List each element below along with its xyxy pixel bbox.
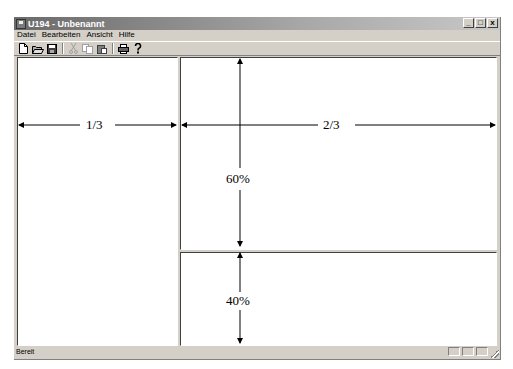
window-title: U194 - Unbenannt xyxy=(28,19,105,29)
status-text: Bereit xyxy=(16,348,34,355)
status-panel xyxy=(448,347,460,356)
menu-hilfe[interactable]: Hilfe xyxy=(116,30,138,40)
status-panels xyxy=(448,347,488,356)
new-file-icon xyxy=(19,43,28,54)
copy-button[interactable] xyxy=(81,43,94,55)
help-button[interactable] xyxy=(131,43,144,55)
label-bottom-height: 40% xyxy=(224,293,252,309)
label-left-width: 1/3 xyxy=(84,117,105,133)
paste-button[interactable] xyxy=(95,43,108,55)
save-button[interactable] xyxy=(45,43,58,55)
left-pane[interactable] xyxy=(17,57,178,346)
cut-button[interactable] xyxy=(67,43,80,55)
close-button[interactable]: x xyxy=(487,18,498,28)
label-top-height: 60% xyxy=(224,171,252,187)
toolbar xyxy=(14,41,500,56)
right-top-pane[interactable] xyxy=(180,57,497,250)
print-icon xyxy=(118,44,129,54)
maximize-button[interactable]: □ xyxy=(475,18,486,28)
minimize-button[interactable]: _ xyxy=(463,18,474,28)
new-file-button[interactable] xyxy=(17,43,30,55)
cut-icon xyxy=(69,43,78,54)
open-folder-icon xyxy=(32,44,44,54)
status-bar: Bereit xyxy=(14,345,500,359)
resize-grip[interactable] xyxy=(490,349,499,358)
paste-icon xyxy=(97,44,107,54)
window-controls: _ □ x xyxy=(463,18,498,28)
toolbar-separator xyxy=(62,43,64,54)
label-right-width: 2/3 xyxy=(321,117,342,133)
app-window: U194 - Unbenannt _ □ x Datei Bearbeiten … xyxy=(14,17,501,360)
menu-ansicht[interactable]: Ansicht xyxy=(83,30,115,40)
print-button[interactable] xyxy=(117,43,130,55)
status-panel xyxy=(476,347,488,356)
save-icon xyxy=(47,44,57,54)
menu-bar: Datei Bearbeiten Ansicht Hilfe xyxy=(14,30,500,40)
menu-datei[interactable]: Datei xyxy=(14,30,39,40)
menu-bearbeiten[interactable]: Bearbeiten xyxy=(39,30,84,40)
open-button[interactable] xyxy=(31,43,44,55)
status-panel xyxy=(462,347,474,356)
app-icon[interactable] xyxy=(16,19,26,29)
copy-icon xyxy=(82,44,93,54)
title-bar[interactable]: U194 - Unbenannt _ □ x xyxy=(14,17,500,30)
help-icon xyxy=(134,43,142,54)
toolbar-separator xyxy=(112,43,114,54)
